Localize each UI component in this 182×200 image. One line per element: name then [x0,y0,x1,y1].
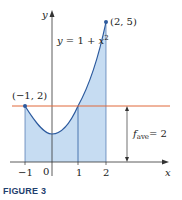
figure-caption: FIGURE 3 [3,186,46,196]
fave-arrow-top-icon [125,106,129,111]
fave-arrow-bottom-icon [125,157,129,162]
point-right [104,20,108,24]
point-left [23,104,27,108]
x-axis-label: x [165,167,171,178]
tick-label-1: 1 [76,167,82,178]
equation-label: y = 1 + x2 [56,34,109,46]
tick-label-neg1: −1 [18,167,33,178]
y-axis-label: y [41,9,48,20]
tick-label-2: 2 [103,167,109,178]
point-left-label: (−1, 2) [12,90,47,101]
fave-label: fave= 2 [132,128,167,141]
point-right-label: (2, 5) [110,16,137,27]
tick-label-0: 0 [43,166,49,177]
y-axis-arrow-icon [50,10,55,17]
figure-diagram: y x y = 1 + x2 (2, 5) (−1, 2) fave= 2 −1… [0,0,182,200]
x-axis-arrow-icon [162,160,169,165]
